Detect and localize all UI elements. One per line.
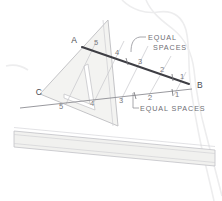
division-label-cb-2: 2	[148, 93, 152, 102]
drafting-triangle	[40, 20, 118, 126]
point-label-a: A	[71, 35, 77, 45]
leader-line-upper	[131, 37, 146, 52]
figure-svg: A B C 5 4 3 2 1 5 4 3 2 1 EQUAL SPACES E…	[0, 0, 222, 201]
division-label-ab-4: 4	[115, 48, 119, 57]
point-label-b: B	[197, 80, 203, 90]
division-label-cb-1: 1	[175, 90, 179, 99]
division-label-cb-3: 3	[119, 96, 123, 105]
division-label-ab-3: 3	[138, 57, 142, 66]
t-square-blade	[14, 128, 215, 167]
division-label-ab-2: 2	[160, 65, 164, 74]
division-label-cb-5: 5	[59, 102, 63, 111]
division-label-cb-4: 4	[90, 99, 94, 108]
point-label-c: C	[36, 87, 42, 97]
annotation-equal-lower: EQUAL SPACES	[140, 104, 206, 113]
division-label-ab-1: 1	[180, 72, 184, 81]
annotation-equal-upper-line2: SPACES	[153, 43, 187, 52]
drawing-canvas: A B C 5 4 3 2 1 5 4 3 2 1 EQUAL SPACES E…	[0, 0, 222, 201]
annotation-equal-upper-line1: EQUAL	[148, 33, 177, 42]
tick-marks-CB	[134, 89, 173, 99]
division-label-ab-5: 5	[94, 38, 98, 47]
